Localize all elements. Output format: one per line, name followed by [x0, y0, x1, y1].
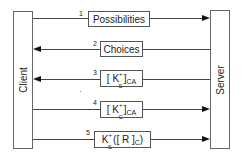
message-2-label: Choices	[100, 41, 143, 57]
message-3-number: 3	[93, 69, 97, 76]
server-entity: Server	[210, 10, 230, 149]
message-1-number: 1	[79, 10, 83, 17]
message-5-number: 5	[86, 129, 90, 136]
server-label: Server	[215, 65, 226, 94]
message-4-label: [ K+C ]CA	[100, 101, 143, 118]
arrowhead-left-icon	[33, 76, 41, 82]
arrowhead-right-icon	[202, 15, 210, 21]
message-1-label: Possibilities	[88, 11, 150, 27]
message-4-number: 4	[93, 99, 97, 106]
client-entity: Client	[13, 11, 33, 149]
stray-dot	[80, 91, 81, 92]
superscript-subscript: +S	[109, 134, 117, 145]
arrowhead-right-icon	[202, 136, 210, 142]
message-2-number: 2	[93, 40, 97, 47]
message-5-label: K+S([ R ]C)	[94, 131, 151, 148]
arrowhead-left-icon	[33, 46, 41, 52]
message-3-label: [ K+S ]CA	[100, 70, 143, 87]
superscript-subscript: +C	[119, 104, 127, 115]
arrowhead-right-icon	[202, 106, 210, 112]
client-label: Client	[18, 67, 29, 93]
